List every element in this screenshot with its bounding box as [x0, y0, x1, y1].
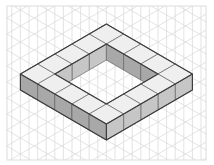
isometric-diagram	[0, 0, 214, 165]
